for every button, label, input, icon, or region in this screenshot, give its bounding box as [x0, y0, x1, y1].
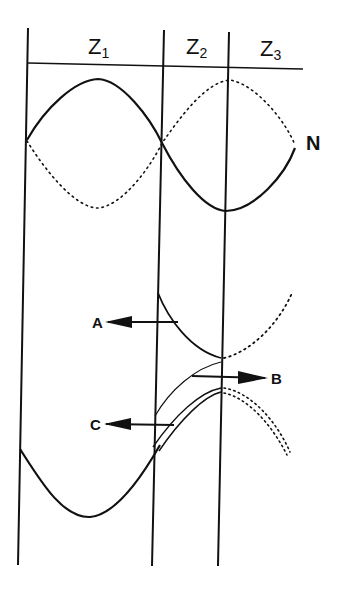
- curve-a-dotted: [224, 293, 292, 358]
- arrow-label-b: B: [271, 370, 282, 387]
- zone-label-z3: Z3: [260, 36, 281, 63]
- zone-diagram: Z1 Z2 Z3 N A B C: [0, 0, 338, 594]
- arrow-label-c: C: [90, 416, 101, 433]
- header-rule: [28, 63, 303, 69]
- arrow-b: B: [192, 370, 282, 387]
- zone-label-z2: Z2: [186, 34, 207, 61]
- curve-c-inner: [159, 392, 221, 451]
- zone-boundary-right: [218, 32, 229, 566]
- zone-label-z1: Z1: [88, 34, 109, 61]
- zone-boundary-mid: [152, 30, 164, 566]
- curve-label-n: N: [306, 132, 320, 154]
- curve-b: [155, 362, 221, 416]
- arrow-c: C: [90, 416, 174, 433]
- wave-solid-bottom: [20, 445, 160, 517]
- zone-boundary-left: [18, 28, 28, 565]
- curve-c-dotted-2: [224, 393, 287, 455]
- arrow-label-a: A: [92, 314, 103, 331]
- curve-a: [158, 293, 221, 358]
- arrow-a: A: [92, 314, 178, 331]
